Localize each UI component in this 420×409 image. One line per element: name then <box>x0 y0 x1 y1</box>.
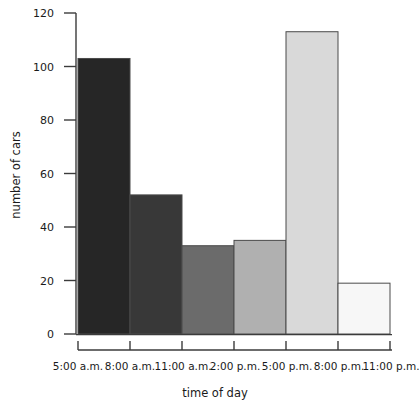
y-tick-label-80: 80 <box>40 114 54 127</box>
x-tick-label-3: 11:00 a.m. <box>155 360 212 372</box>
x-tick-label-5: 5:00 p.m. <box>262 360 313 372</box>
histogram-chart: number of cars 120 100 80 60 40 20 0 <box>0 0 420 409</box>
chart-canvas: number of cars 120 100 80 60 40 20 0 <box>0 0 420 409</box>
bar-bin-1 <box>78 58 130 334</box>
y-tick-label-0: 0 <box>47 328 54 341</box>
x-tick-label-2: 8:00 a.m. <box>105 360 155 372</box>
y-axis-title: number of cars <box>9 131 23 218</box>
bar-bin-2 <box>130 195 182 334</box>
bar-bin-6 <box>338 283 390 334</box>
x-tick-label-7: 11:00 p.m. <box>362 360 419 372</box>
bar-bin-4 <box>234 240 286 334</box>
x-axis-title: time of day <box>182 386 248 400</box>
x-tick-label-6: 8:00 p.m. <box>314 360 365 372</box>
y-tick-label-20: 20 <box>40 275 54 288</box>
y-tick-label-120: 120 <box>33 7 54 20</box>
x-tick-label-4: 2:00 p.m. <box>210 360 261 372</box>
y-tick-label-100: 100 <box>33 61 54 74</box>
bar-bin-3 <box>182 246 234 334</box>
bar-bin-5 <box>286 32 338 334</box>
x-tick-label-1: 5:00 a.m. <box>53 360 103 372</box>
y-tick-label-60: 60 <box>40 168 54 181</box>
y-tick-label-40: 40 <box>40 221 54 234</box>
